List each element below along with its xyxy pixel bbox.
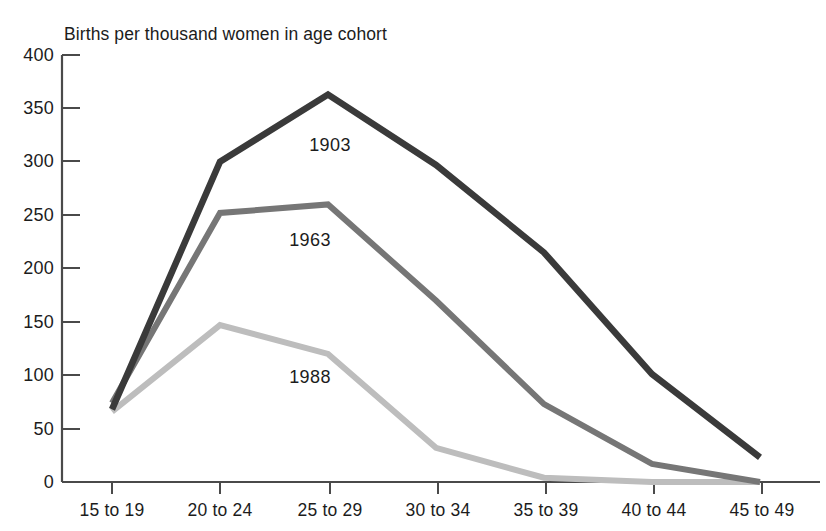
ytick-label-100: 100 [8, 365, 54, 386]
plot-area [0, 0, 826, 531]
series-annotation-1963: 1963 [289, 230, 331, 251]
y-axis-ticks [62, 55, 80, 429]
ytick-label-50: 50 [8, 419, 54, 440]
xtick-label-35-to-39: 35 to 39 [486, 500, 606, 521]
ytick-label-0: 0 [8, 472, 54, 493]
ytick-label-350: 350 [8, 98, 54, 119]
ytick-label-400: 400 [8, 45, 54, 66]
line-chart: Births per thousand women in age cohort [0, 0, 826, 531]
xtick-label-45-to-49: 45 to 49 [702, 500, 822, 521]
series-annotation-1903: 1903 [309, 135, 351, 156]
axes [62, 55, 820, 494]
ytick-label-300: 300 [8, 151, 54, 172]
xtick-label-15-to-19: 15 to 19 [52, 500, 172, 521]
series-line-1903 [112, 94, 760, 457]
series-annotation-1988: 1988 [289, 367, 331, 388]
series-line-1988 [112, 325, 760, 482]
ytick-label-150: 150 [8, 312, 54, 333]
xtick-label-40-to-44: 40 to 44 [594, 500, 714, 521]
xtick-label-20-to-24: 20 to 24 [160, 500, 280, 521]
series-lines [112, 94, 760, 482]
xtick-label-25-to-29: 25 to 29 [270, 500, 390, 521]
ytick-label-200: 200 [8, 258, 54, 279]
xtick-label-30-to-34: 30 to 34 [378, 500, 498, 521]
ytick-label-250: 250 [8, 205, 54, 226]
series-line-1963 [112, 204, 760, 482]
